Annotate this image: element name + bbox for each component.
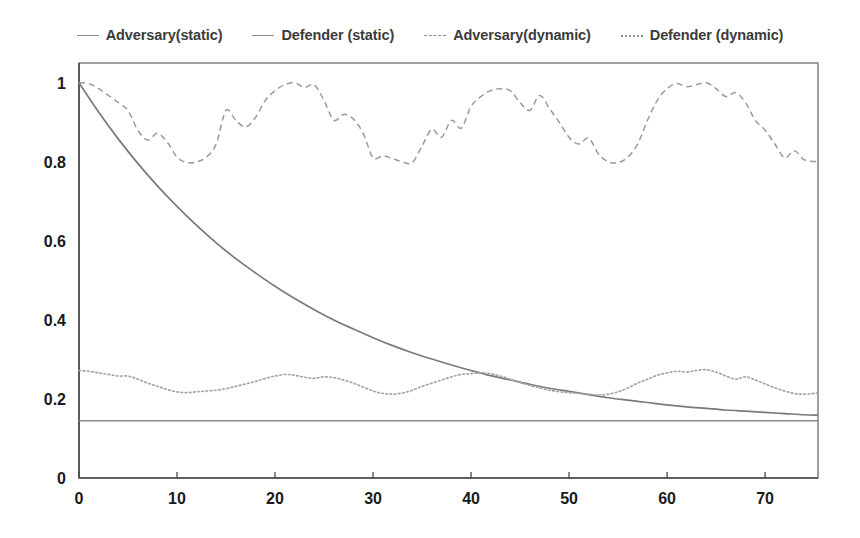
- x-tick-label: 30: [364, 490, 382, 507]
- chart-svg: 00.20.40.60.81 010203040506070: [0, 0, 860, 538]
- chart-figure: Adversary(static) Defender (static) Adve…: [0, 0, 860, 538]
- series-adversary-dynamic: [79, 83, 818, 164]
- y-tick-label: 0.8: [44, 154, 66, 171]
- series-group: [79, 83, 818, 421]
- x-tick-label: 50: [560, 490, 578, 507]
- x-tick-label: 60: [658, 490, 676, 507]
- series-defender-static: [79, 83, 818, 415]
- y-tick-label: 1: [57, 75, 66, 92]
- x-tick-label: 10: [168, 490, 186, 507]
- y-axis-labels: 00.20.40.60.81: [44, 75, 66, 487]
- x-tick-label: 40: [462, 490, 480, 507]
- y-tick-label: 0: [57, 470, 66, 487]
- x-tick-label: 0: [75, 490, 84, 507]
- plot-area: 00.20.40.60.81 010203040506070: [0, 0, 860, 538]
- y-tick-label: 0.2: [44, 391, 66, 408]
- y-tick-label: 0.4: [44, 312, 66, 329]
- x-tick-label: 70: [756, 490, 774, 507]
- series-defender-dynamic: [79, 370, 818, 395]
- axis-ticks-group: [79, 472, 765, 478]
- x-axis-labels: 010203040506070: [75, 490, 775, 507]
- x-tick-label: 20: [266, 490, 284, 507]
- y-tick-label: 0.6: [44, 233, 66, 250]
